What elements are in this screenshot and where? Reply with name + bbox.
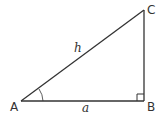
side-label-h: h — [74, 41, 82, 55]
vertex-label-c: C — [147, 3, 155, 17]
angle-arc-icon — [39, 89, 43, 101]
right-angle-marker-icon — [137, 94, 144, 101]
side-label-a: a — [82, 101, 89, 115]
vertex-label-a: A — [10, 100, 19, 114]
right-triangle-diagram: A B C h a — [0, 0, 168, 116]
side-ac-hypotenuse — [21, 10, 144, 101]
vertex-label-b: B — [147, 100, 155, 114]
